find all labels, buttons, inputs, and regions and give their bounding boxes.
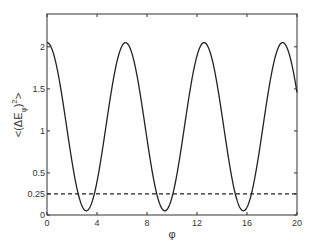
series-variance — [47, 43, 297, 211]
axes-frame — [47, 14, 297, 215]
y-tick-label: 0.25 — [27, 189, 45, 199]
y-tick-label: 2 — [40, 42, 45, 52]
y-tick-label: 1 — [40, 126, 45, 136]
y-tick-label: 1.5 — [32, 84, 45, 94]
x-tick-label: 16 — [242, 218, 252, 228]
y-axis-label: <(ΔEφ)2> — [10, 93, 28, 138]
y-tick-label: 0.5 — [32, 168, 45, 178]
x-axis-label: φ — [168, 228, 175, 240]
x-tick-label: 12 — [192, 218, 202, 228]
y-tick-label: 0 — [40, 210, 45, 220]
plot-area — [47, 14, 297, 215]
x-tick-label: 20 — [292, 218, 302, 228]
x-tick-label: 0 — [44, 218, 49, 228]
x-tick-label: 4 — [94, 218, 99, 228]
x-tick-label: 8 — [144, 218, 149, 228]
line-chart: 048121620 00.250.511.52 φ <(ΔEφ)2> — [0, 0, 315, 248]
svg-text:<(ΔEφ)2>: <(ΔEφ)2> — [10, 93, 28, 138]
